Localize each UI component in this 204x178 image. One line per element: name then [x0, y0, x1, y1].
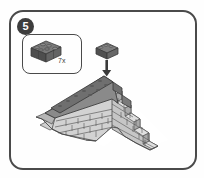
floating-brick: [96, 43, 118, 59]
brick-wall-model: [36, 76, 168, 150]
illustration-stage: [0, 0, 204, 178]
arrow-down-icon: [102, 60, 111, 77]
model-illustration: [0, 0, 204, 178]
callout-brick: [31, 41, 61, 62]
instruction-panel: 5 7x: [0, 0, 204, 178]
